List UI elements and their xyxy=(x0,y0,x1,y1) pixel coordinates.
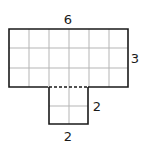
composite-figure: 6 3 2 2 xyxy=(0,0,142,148)
label-top-height: 3 xyxy=(131,51,139,66)
top-grid-lines xyxy=(9,29,128,87)
label-bottom-height: 2 xyxy=(93,99,101,114)
bottom-grid-lines xyxy=(49,87,88,124)
label-top-width: 6 xyxy=(64,12,72,27)
label-bottom-width: 2 xyxy=(64,129,72,144)
